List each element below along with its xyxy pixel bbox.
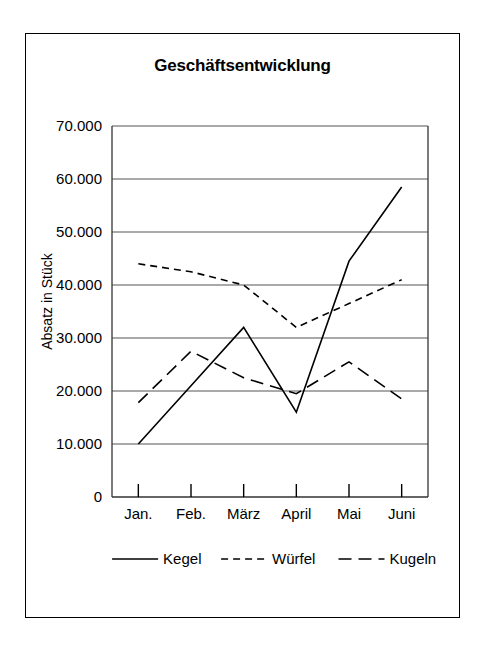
y-tick-label-60000: 60.000 xyxy=(56,170,102,187)
plot-area: 010.00020.00030.00040.00050.00060.00070.… xyxy=(26,34,461,619)
legend-label-kugeln: Kugeln xyxy=(390,550,437,567)
y-tick-label-10000: 10.000 xyxy=(56,435,102,452)
chart-figure: Geschäftsentwicklung 010.00020.00030.000… xyxy=(25,33,460,618)
line-chart-svg: 010.00020.00030.00040.00050.00060.00070.… xyxy=(26,34,461,619)
series-line-kegel xyxy=(138,187,401,444)
legend-label-kegel: Kegel xyxy=(163,550,201,567)
y-tick-label-0: 0 xyxy=(94,488,102,505)
x-tick-label-0: Jan. xyxy=(124,505,152,522)
y-tick-label-40000: 40.000 xyxy=(56,276,102,293)
y-tick-label-70000: 70.000 xyxy=(56,117,102,134)
legend-label-würfel: Würfel xyxy=(272,550,315,567)
x-tick-label-3: April xyxy=(281,505,311,522)
y-axis-title: Absatz in Stück xyxy=(39,252,55,349)
y-tick-label-30000: 30.000 xyxy=(56,329,102,346)
series-line-kugeln xyxy=(138,351,401,402)
x-tick-label-4: Mai xyxy=(337,505,361,522)
x-tick-label-2: März xyxy=(227,505,260,522)
y-tick-label-20000: 20.000 xyxy=(56,382,102,399)
x-tick-label-1: Feb. xyxy=(176,505,206,522)
x-tick-label-5: Juni xyxy=(388,505,416,522)
series-line-würfel xyxy=(138,264,401,328)
y-tick-label-50000: 50.000 xyxy=(56,223,102,240)
